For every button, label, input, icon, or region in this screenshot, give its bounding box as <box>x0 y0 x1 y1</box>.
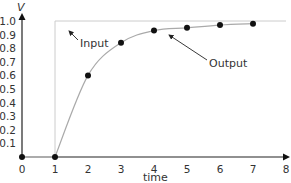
x-tick-label: 2 <box>85 163 92 175</box>
output-arrow-icon <box>169 35 207 60</box>
output-curve <box>22 24 253 157</box>
y-tick-label: 1.0 <box>0 15 16 27</box>
input-line <box>22 21 286 157</box>
output-annotation: Output <box>209 57 248 70</box>
y-axis-title: V <box>17 1 26 14</box>
output-data-point <box>19 154 25 160</box>
input-arrow-icon <box>69 31 78 40</box>
y-tick-label: 0.6 <box>0 69 16 81</box>
output-data-point <box>52 154 58 160</box>
chart: 012345678 0.10.20.30.40.50.60.70.80.91.0… <box>0 0 291 183</box>
x-tick-label: 1 <box>52 163 59 175</box>
x-axis-title: time <box>143 171 168 183</box>
output-data-point <box>184 25 190 31</box>
y-tick-label: 0.3 <box>0 110 16 122</box>
output-data-point <box>217 22 223 28</box>
y-tick-label: 0.7 <box>0 56 16 68</box>
x-tick-label: 3 <box>118 163 125 175</box>
y-tick-label: 0.4 <box>0 97 16 109</box>
x-tick-label: 6 <box>217 163 224 175</box>
output-data-point <box>118 40 124 46</box>
x-tick-label: 8 <box>283 163 290 175</box>
y-axis-arrow-icon <box>19 13 26 20</box>
x-axis-arrow-icon <box>283 154 290 161</box>
input-series <box>22 21 286 157</box>
y-tick-labels: 0.10.20.30.40.50.60.70.80.91.0 <box>0 15 16 149</box>
y-tick-label: 0.1 <box>0 137 16 149</box>
output-data-point <box>151 28 157 34</box>
x-tick-label: 0 <box>19 163 26 175</box>
y-tick-label: 0.8 <box>0 42 16 54</box>
output-data-point <box>85 72 91 78</box>
output-data-point <box>250 21 256 27</box>
y-tick-label: 0.9 <box>0 29 16 41</box>
y-tick-label: 0.5 <box>0 83 16 95</box>
x-tick-label: 5 <box>184 163 191 175</box>
input-annotation: Input <box>80 37 109 50</box>
axes <box>19 13 291 161</box>
y-tick-label: 0.2 <box>0 124 16 136</box>
x-tick-label: 7 <box>250 163 257 175</box>
